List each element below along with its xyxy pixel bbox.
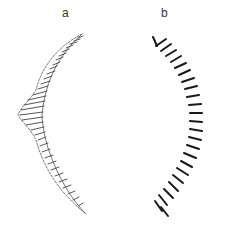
panel-b-tick-arc — [153, 37, 202, 216]
tick — [189, 137, 201, 140]
crescent-outer-edge — [18, 34, 86, 214]
tick — [166, 50, 176, 56]
tick — [190, 121, 202, 122]
tick — [177, 168, 188, 175]
tick — [189, 104, 201, 105]
tick — [187, 95, 199, 97]
tick — [161, 44, 171, 51]
tick — [184, 153, 196, 158]
tick — [179, 70, 190, 75]
tick — [173, 175, 183, 183]
tick — [190, 129, 202, 131]
tick — [187, 145, 199, 149]
tick — [155, 201, 162, 211]
tick — [169, 182, 178, 191]
figure-canvas — [0, 0, 230, 232]
tick — [164, 189, 173, 198]
tick — [156, 39, 166, 46]
crescent-inner-edge — [42, 34, 86, 214]
tick — [175, 63, 186, 68]
crescent-hatching — [20, 36, 83, 206]
panel-a-crescent — [18, 34, 86, 214]
tick — [181, 161, 192, 167]
tick — [185, 86, 197, 89]
tick — [182, 78, 194, 82]
tick — [159, 195, 167, 205]
tick — [171, 56, 181, 62]
